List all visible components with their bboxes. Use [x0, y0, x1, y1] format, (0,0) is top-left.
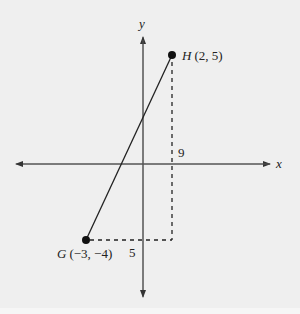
vertical-leg-length: 9: [178, 145, 185, 160]
point-h-label: H(2, 5): [181, 48, 223, 63]
y-axis-label: y: [137, 16, 145, 31]
coordinate-plane: x y H(2, 5) G(−3, −4) 9 5: [0, 0, 300, 314]
point-h-coords: (2, 5): [194, 48, 222, 63]
segment-gh: [86, 55, 172, 240]
x-axis-label: x: [275, 156, 282, 171]
point-h-name: H: [181, 48, 192, 63]
point-g-label: G(−3, −4): [57, 246, 112, 261]
point-h: [168, 51, 176, 59]
point-g-name: G: [57, 246, 67, 261]
point-g-coords: (−3, −4): [69, 246, 112, 261]
horizontal-leg-length: 5: [129, 245, 136, 260]
point-g: [82, 236, 90, 244]
